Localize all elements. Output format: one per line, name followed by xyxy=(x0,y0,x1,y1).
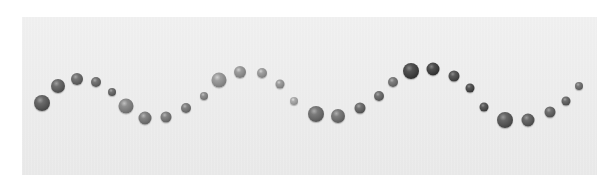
bead-17 xyxy=(331,109,345,123)
bead-18 xyxy=(355,103,366,114)
bead-16 xyxy=(308,106,324,122)
bead-12 xyxy=(234,66,246,78)
bead-1 xyxy=(34,95,50,111)
bead-14 xyxy=(276,80,285,89)
bead-29 xyxy=(562,97,571,106)
bead-11 xyxy=(212,73,227,88)
bead-24 xyxy=(466,84,475,93)
bead-25 xyxy=(480,103,489,112)
bead-20 xyxy=(388,77,398,87)
bead-7 xyxy=(139,112,152,125)
bead-13 xyxy=(257,68,267,78)
backdrop-panel xyxy=(22,17,597,175)
bead-6 xyxy=(119,99,134,114)
bead-27 xyxy=(522,114,535,127)
bead-21 xyxy=(403,63,419,79)
bead-22 xyxy=(427,63,440,76)
bead-9 xyxy=(181,103,191,113)
bead-19 xyxy=(374,91,384,101)
bead-10 xyxy=(200,92,208,100)
bead-8 xyxy=(161,112,172,123)
bead-26 xyxy=(497,112,513,128)
bead-30 xyxy=(575,82,583,90)
bead-5 xyxy=(108,88,116,96)
bead-3 xyxy=(71,73,83,85)
bead-4 xyxy=(91,77,101,87)
bead-28 xyxy=(545,107,556,118)
bead-2 xyxy=(51,79,65,93)
bead-23 xyxy=(449,71,460,82)
bead-15 xyxy=(290,97,298,105)
